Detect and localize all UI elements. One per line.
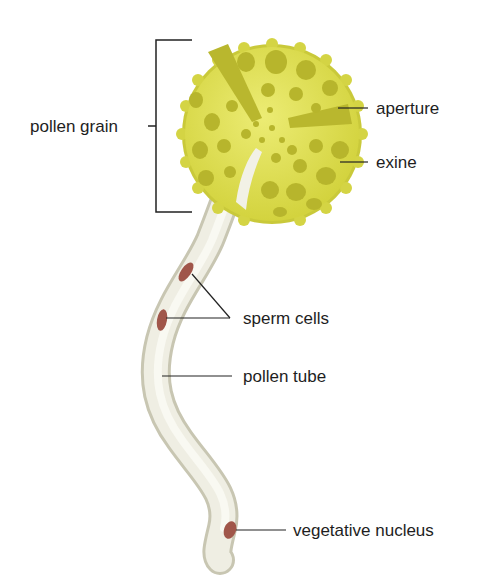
label-sperm-cells: sperm cells (243, 309, 329, 328)
label-exine: exine (376, 153, 417, 172)
pollen-diagram: pollen grain aperture exine sperm cells … (0, 0, 496, 586)
label-pollen-tube: pollen tube (243, 367, 326, 386)
pollen-grain (176, 38, 368, 226)
diagram-canvas: pollen grain aperture exine sperm cells … (0, 0, 496, 586)
label-aperture: aperture (376, 99, 439, 118)
label-pollen-grain: pollen grain (30, 117, 118, 136)
label-vegetative-nucleus: vegetative nucleus (293, 521, 434, 540)
